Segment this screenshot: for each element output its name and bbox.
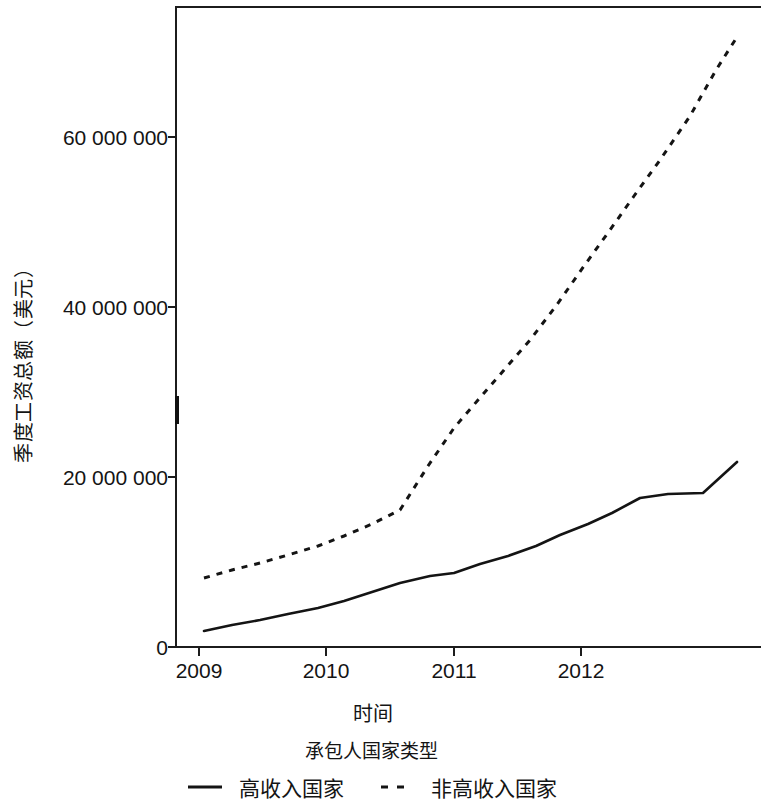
- legend: 承包人国家类型 高收入国家 非高收入国家: [0, 736, 761, 802]
- legend-item-high-income[interactable]: 高收入国家: [186, 772, 344, 802]
- y-tick-label-0: 0: [156, 637, 168, 658]
- legend-swatch-dashed-icon: [378, 780, 416, 794]
- y-axis-title-container: 季度工资总额（美元）: [0, 215, 44, 505]
- y-tick-label-40000000: 40 000 000: [63, 297, 168, 318]
- legend-items: 高收入国家 非高收入国家: [0, 772, 752, 802]
- x-tick-label-2012: 2012: [558, 660, 605, 681]
- legend-title: 承包人国家类型: [0, 736, 752, 763]
- y-axis-ticks: [168, 137, 176, 647]
- legend-swatch-solid-icon: [186, 780, 224, 794]
- y-axis-title: 季度工资总额（美元）: [8, 258, 37, 463]
- x-tick-label-2011: 2011: [431, 660, 476, 681]
- x-axis-title-container: 时间: [0, 698, 761, 727]
- x-tick-label-2010: 2010: [303, 660, 350, 681]
- legend-item-non-high-income[interactable]: 非高收入国家: [378, 772, 557, 802]
- legend-label-high-income: 高收入国家: [239, 772, 344, 802]
- y-tick-label-20000000: 20 000 000: [63, 467, 168, 488]
- x-tick-label-2009: 2009: [176, 660, 223, 681]
- x-axis-title: 时间: [353, 703, 393, 725]
- legend-label-non-high-income: 非高收入国家: [431, 772, 557, 802]
- series-line-high-income: [204, 462, 737, 631]
- series-line-non-high-income: [204, 37, 737, 578]
- plot-frame: [176, 7, 761, 647]
- x-axis-ticks: [199, 647, 581, 656]
- y-axis-tick-labels: 0 20 000 000 40 000 000 60 000 000: [44, 0, 168, 680]
- y-tick-label-60000000: 60 000 000: [63, 127, 168, 148]
